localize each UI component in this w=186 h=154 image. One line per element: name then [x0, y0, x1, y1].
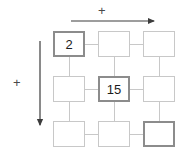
cell-grid: 2 15	[53, 31, 174, 147]
connector-r2c1-r3c1	[69, 102, 70, 121]
connector-r1c1-r2c1	[69, 57, 70, 76]
grid-cell-r3c3[interactable]	[143, 121, 175, 147]
grid-cell-r2c1[interactable]	[53, 76, 85, 102]
connector-r2c2-r3c2	[114, 102, 115, 121]
grid-cell-r1c1-value: 2	[65, 38, 72, 51]
connector-r1c2-r1c3	[130, 44, 143, 45]
grid-cell-r2c3[interactable]	[143, 76, 175, 102]
horizontal-axis-label: +	[98, 4, 106, 17]
connector-r3c2-r3c3	[130, 134, 143, 135]
grid-cell-r3c1[interactable]	[53, 121, 85, 147]
connector-r1c2-r2c2	[114, 57, 115, 76]
grid-cell-r1c2[interactable]	[98, 31, 130, 57]
connector-r3c1-r3c2	[85, 134, 98, 135]
diagram-canvas: + + 2 15	[0, 0, 186, 154]
vertical-axis-label: +	[13, 76, 21, 89]
connector-r2c3-r3c3	[159, 102, 160, 121]
grid-cell-r3c2[interactable]	[98, 121, 130, 147]
grid-cell-r1c1[interactable]: 2	[53, 31, 85, 57]
grid-cell-r2c2-value: 15	[107, 83, 121, 96]
connector-r2c2-r2c3	[130, 89, 143, 90]
grid-cell-r2c2[interactable]: 15	[98, 76, 130, 102]
connector-r2c1-r2c2	[85, 89, 98, 90]
connector-r1c1-r1c2	[85, 44, 98, 45]
connector-r1c3-r2c3	[159, 57, 160, 76]
grid-cell-r1c3[interactable]	[143, 31, 175, 57]
